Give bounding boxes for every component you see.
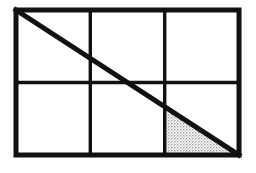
figure-canvas xyxy=(0,0,256,173)
geometry-diagram xyxy=(0,0,256,173)
